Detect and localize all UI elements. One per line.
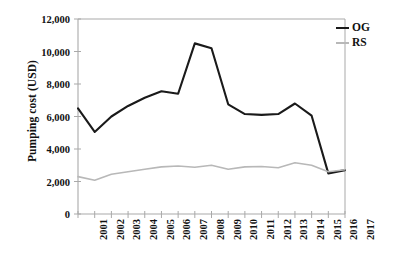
- chart-legend: OGRS: [336, 20, 396, 50]
- legend-swatch-og: [336, 27, 349, 29]
- legend-swatch-rs: [336, 42, 349, 44]
- chart-figure: Pumping cost (USD) 02,0004,0006,0008,000…: [0, 0, 399, 263]
- data-series: [78, 43, 345, 180]
- legend-item-rs[interactable]: RS: [336, 35, 396, 50]
- series-line-rs: [78, 163, 345, 180]
- axes: [74, 19, 345, 218]
- legend-item-og[interactable]: OG: [336, 20, 396, 35]
- legend-label: OG: [352, 22, 370, 34]
- series-line-og: [78, 43, 345, 173]
- legend-label: RS: [352, 37, 367, 49]
